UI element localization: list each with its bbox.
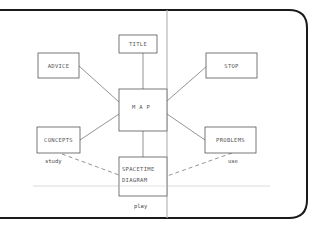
node-stop[interactable]: STOP	[206, 53, 257, 78]
node-map-label: M A P	[132, 104, 150, 110]
diagram-canvas: TITLE ADVICE STOP M A P CONCEPTS PROBLEM…	[0, 0, 314, 227]
label-use: use	[228, 158, 238, 164]
node-spacetime-label-line2: DIAGRAM	[122, 177, 148, 183]
node-stop-label: STOP	[224, 63, 239, 69]
node-problems[interactable]: PROBLEMS	[205, 127, 256, 153]
label-study: study	[45, 158, 62, 165]
node-problems-label: PROBLEMS	[216, 137, 245, 143]
node-concepts-label: CONCEPTS	[44, 137, 73, 143]
label-play: play	[134, 203, 148, 210]
edge-problems-spacetime-dashed	[167, 153, 232, 176]
edge-stop-map	[167, 66, 207, 101]
edge-problems-map	[167, 114, 205, 140]
node-spacetime-label-line1: SPACETIME	[122, 166, 155, 172]
edge-concepts-map	[80, 114, 119, 140]
node-spacetime-diagram[interactable]: SPACETIME DIAGRAM	[119, 157, 167, 196]
node-title[interactable]: TITLE	[119, 35, 157, 53]
node-title-label: TITLE	[129, 41, 147, 47]
edge-advice-map	[79, 66, 119, 102]
node-map[interactable]: M A P	[119, 89, 167, 131]
node-advice[interactable]: ADVICE	[38, 53, 79, 78]
node-concepts[interactable]: CONCEPTS	[37, 127, 80, 153]
node-advice-label: ADVICE	[48, 63, 70, 69]
edge-concepts-spacetime-dashed	[62, 154, 119, 175]
node-map-box	[119, 89, 167, 131]
